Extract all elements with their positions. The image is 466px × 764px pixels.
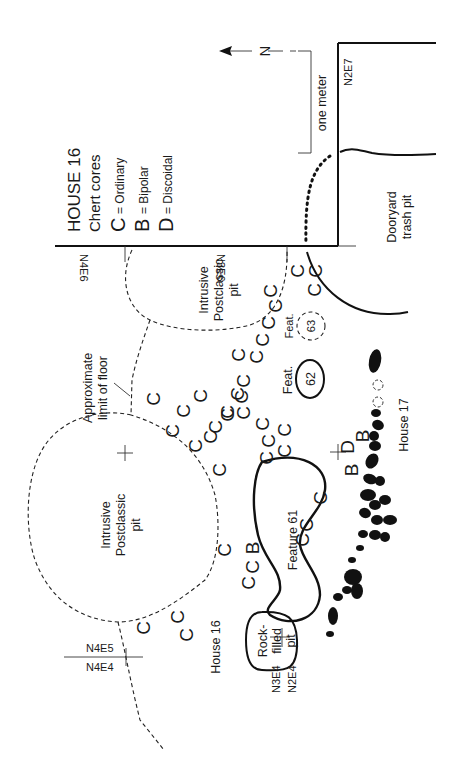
rock (369, 530, 381, 540)
north-arrow: N (219, 46, 296, 57)
north-arrow-label: N (256, 46, 273, 57)
rock (348, 557, 356, 563)
label-rock-filled-pit: Rock- filled pit (256, 625, 298, 658)
core-ordinary: C (190, 389, 211, 403)
core-ordinary: C (173, 404, 194, 418)
chert-cores: CCCCCCCCCCCCCCCCCCCCCCCCCCCCCCCCCCCCCBBB… (133, 264, 373, 642)
core-ordinary: C (133, 621, 154, 635)
grid-label-n2e4: N2E4 (286, 665, 298, 693)
rock (371, 409, 381, 417)
rock (358, 530, 368, 538)
legend-value-b: = Bipolar (137, 166, 151, 214)
crosshair-large-pit (117, 445, 133, 461)
missing-rock (373, 380, 383, 390)
rock (380, 532, 390, 542)
core-ordinary: C (256, 451, 277, 465)
rock (375, 476, 385, 486)
intrusive-pit-large-line-3: pit (129, 518, 143, 532)
missing-rock (373, 397, 383, 407)
rock (326, 631, 334, 637)
rock (371, 515, 383, 525)
core-ordinary: C (214, 543, 235, 557)
rock (328, 607, 338, 625)
house-16-chert-core-plan: N CCCCCCCCCCCCCCCCCCCCCCCCCCCCCCCCCCCCCB… (0, 0, 466, 764)
floor-limit-line-1: Approximate (81, 353, 95, 423)
scale-bar-label: one meter (315, 75, 329, 131)
core-discoidal: D (337, 440, 358, 454)
grid-label-n2e7: N2E7 (342, 58, 354, 86)
core-ordinary: C (304, 283, 325, 297)
rock (342, 586, 352, 594)
label-dooryard-trash-pit: Dooryard trash pit (385, 191, 414, 242)
rock (344, 569, 362, 585)
rock (358, 506, 373, 520)
trash-pit-edge-top (340, 149, 436, 155)
trash-pit-dotted-edge (306, 156, 330, 245)
intrusive-pit-large-line-2: Postclassic (114, 494, 128, 557)
core-ordinary: C (217, 405, 238, 419)
intrusive-pit-small-line-1: Intrusive (197, 266, 211, 313)
rock-alignment (326, 348, 397, 637)
core-ordinary: C (143, 392, 164, 406)
label-house-16: House 16 (209, 620, 223, 674)
legend-key-d: D (155, 218, 177, 232)
label-house-17: House 17 (397, 398, 411, 452)
core-ordinary: C (265, 299, 286, 313)
core-ordinary: C (185, 439, 206, 453)
core-ordinary: C (231, 390, 252, 404)
core-ordinary: C (167, 610, 188, 624)
core-ordinary: C (238, 576, 259, 590)
grid-label-n4e4: N4E4 (86, 661, 114, 673)
label-feature-63-prefix: Feat. (283, 313, 295, 338)
dashed-features (28, 250, 287, 750)
core-ordinary: C (228, 348, 249, 362)
legend-value-c: = Ordinary (113, 158, 127, 214)
label-intrusive-pit-small: Intrusive Postclassic pit (197, 259, 241, 322)
core-ordinary: C (260, 284, 281, 298)
core-ordinary: C (258, 316, 279, 330)
trash-pit-edge-arc (307, 252, 408, 314)
rock (383, 515, 397, 525)
core-ordinary: C (246, 350, 267, 364)
dooryard-line-1: Dooryard (385, 191, 399, 242)
rock-filled-pit-line-3: pit (284, 634, 298, 648)
core-ordinary: C (242, 560, 263, 574)
floor-limit-line-2: limit of floor (96, 356, 110, 420)
core-ordinary: C (252, 417, 273, 431)
intrusive-pit-large-line-1: Intrusive (99, 501, 113, 548)
intrusive-pit-small-line-3: pit (227, 283, 241, 297)
grid-label-n3e4: N3E4 (270, 665, 282, 693)
legend-value-d: = Discoidal (161, 155, 175, 214)
core-ordinary: C (310, 491, 331, 505)
scale-bar (298, 51, 311, 153)
rock-filled-pit-line-1: Rock- (256, 625, 270, 658)
dooryard-line-2: trash pit (400, 194, 414, 239)
label-feature-61: Feature 61 (286, 510, 300, 571)
intrusive-pit-small-line-2: Postclassic (212, 259, 226, 322)
legend-key-b: B (131, 219, 153, 232)
core-ordinary: C (176, 628, 197, 642)
legend-key-c: C (107, 218, 129, 232)
label-floor-limit: Approximate limit of floor (81, 353, 110, 423)
rock (360, 489, 376, 501)
rock (371, 418, 386, 432)
core-bipolar: B (341, 464, 362, 477)
rock-filled-pit-line-2: filled (270, 628, 284, 654)
grid-label-n4e6: N4E6 (78, 254, 90, 282)
core-ordinary: C (233, 374, 254, 388)
figure-title: HOUSE 16 (65, 148, 84, 232)
label-feature-63-number: 63 (305, 320, 317, 332)
grid-label-n4e5: N4E5 (86, 642, 114, 654)
core-ordinary: C (305, 264, 326, 278)
core-ordinary: C (209, 463, 230, 477)
rock (351, 583, 363, 599)
core-ordinary: C (252, 333, 273, 347)
label-feature-62-number: 62 (304, 372, 318, 386)
floor-limit-pointer (114, 383, 130, 396)
core-bipolar: B (242, 542, 263, 555)
figure-subtitle: Chert cores (86, 154, 103, 232)
core-ordinary: C (274, 423, 295, 437)
core-ordinary: C (274, 444, 295, 458)
rock (379, 495, 391, 505)
rock (367, 348, 383, 374)
